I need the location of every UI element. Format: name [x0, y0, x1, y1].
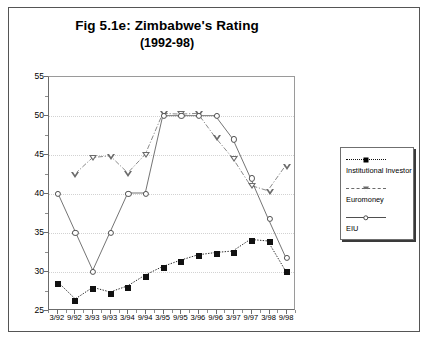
legend-label: EIU — [346, 224, 412, 233]
legend-marker-sample — [346, 155, 386, 164]
x-axis-tick-mark — [92, 310, 93, 314]
x-axis-tick-mark — [251, 310, 252, 314]
figure-frame: Fig 5.1e: Zimbabwe's Rating (1992-98) 25… — [8, 7, 420, 332]
x-axis-tick-label: 3/96 — [191, 313, 206, 322]
y-axis-tick-label: 45 — [20, 149, 44, 159]
legend-label: Euromoney — [346, 195, 412, 204]
legend-marker-sample — [346, 184, 386, 193]
x-axis-tick-label: 3/92 — [49, 313, 64, 322]
x-axis-labels: 3/929/923/939/933/949/943/959/953/969/96… — [48, 313, 295, 331]
y-axis-labels: 25303540455055 — [17, 76, 44, 310]
chart-subtitle: (1992-98) — [9, 35, 325, 51]
x-axis-tick-mark — [233, 310, 234, 314]
x-axis-tick-mark — [286, 310, 287, 314]
legend-label: Institutional Investor — [346, 166, 412, 175]
x-axis-tick-label: 9/96 — [208, 313, 223, 322]
x-axis-tick-mark — [57, 310, 58, 314]
x-axis-tick-mark — [269, 310, 270, 314]
filled-square-icon — [364, 157, 369, 162]
x-axis-minor-tick — [154, 310, 155, 313]
x-axis-tick-mark — [74, 310, 75, 314]
x-axis-minor-tick — [83, 310, 84, 313]
x-axis-minor-tick — [172, 310, 173, 313]
x-axis-minor-tick — [66, 310, 67, 313]
x-axis-tick-mark — [198, 310, 199, 314]
plot-area — [48, 76, 295, 310]
series-lines — [49, 77, 294, 309]
y-axis-tick-label: 35 — [20, 227, 44, 237]
x-axis-tick-label: 9/98 — [279, 313, 294, 322]
y-axis-tick-label: 40 — [20, 188, 44, 198]
x-axis-minor-tick — [207, 310, 208, 313]
x-axis-minor-tick — [260, 310, 261, 313]
x-axis-minor-tick — [136, 310, 137, 313]
chart-title-block: Fig 5.1e: Zimbabwe's Rating (1992-98) — [9, 18, 325, 51]
x-axis-minor-tick — [48, 310, 49, 313]
page-title: Fig 5.1e: Zimbabwe's Rating — [9, 18, 325, 34]
x-axis-minor-tick — [119, 310, 120, 313]
legend-entry[interactable]: EIU — [346, 213, 412, 233]
series-line — [58, 116, 286, 271]
x-axis-minor-tick — [277, 310, 278, 313]
x-axis-tick-label: 9/92 — [67, 313, 82, 322]
x-axis-minor-tick — [189, 310, 190, 313]
x-axis-tick-mark — [180, 310, 181, 314]
x-axis-tick-mark — [163, 310, 164, 314]
x-axis-minor-tick — [295, 310, 296, 313]
x-axis-tick-label: 9/94 — [138, 313, 153, 322]
y-axis-tick-label: 25 — [20, 305, 44, 315]
x-axis-tick-mark — [127, 310, 128, 314]
x-axis-tick-mark — [110, 310, 111, 314]
x-axis-minor-tick — [224, 310, 225, 313]
down-triangle-icon — [363, 186, 369, 191]
x-axis-tick-label: 3/97 — [226, 313, 241, 322]
legend-entry[interactable]: Institutional Investor — [346, 155, 412, 175]
x-axis-tick-label: 9/93 — [102, 313, 117, 322]
y-axis-tick-label: 30 — [20, 266, 44, 276]
x-axis-tick-label: 3/95 — [155, 313, 170, 322]
x-axis-tick-label: 3/98 — [261, 313, 276, 322]
x-axis-tick-label: 3/93 — [85, 313, 100, 322]
x-axis-minor-tick — [242, 310, 243, 313]
y-axis-tick-label: 55 — [20, 71, 44, 81]
y-axis-tick-label: 50 — [20, 110, 44, 120]
legend-entry[interactable]: Euromoney — [346, 184, 412, 204]
x-axis-tick-label: 9/95 — [173, 313, 188, 322]
open-circle-icon — [363, 215, 368, 220]
x-axis-tick-label: 9/97 — [244, 313, 259, 322]
chart-legend: Institutional InvestorEuromoneyEIU — [340, 147, 414, 240]
x-axis-tick-label: 3/94 — [120, 313, 135, 322]
x-axis-tick-mark — [216, 310, 217, 314]
x-axis-minor-tick — [101, 310, 102, 313]
x-axis-tick-mark — [145, 310, 146, 314]
legend-marker-sample — [346, 213, 386, 222]
